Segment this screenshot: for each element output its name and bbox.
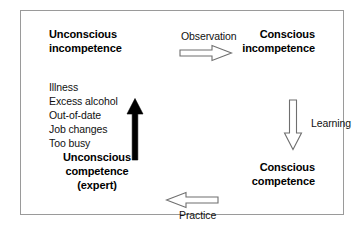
quadrant-label-conscious-incompetence: Conscious incompetence (242, 27, 315, 55)
list-item: Job changes (49, 122, 118, 136)
quadrant-label-line: Conscious (252, 160, 315, 174)
arrow-down-icon (283, 99, 303, 151)
quadrant-label-line: (expert) (49, 178, 145, 192)
quadrant-label-line: Unconscious (49, 27, 122, 41)
transition-label-observation: Observation (181, 30, 237, 42)
quadrant-label-line: incompetence (49, 41, 122, 55)
list-item: Illness (49, 80, 118, 94)
quadrant-label-line: Conscious (242, 27, 315, 41)
quadrant-label-line: competence (252, 174, 315, 188)
regression-causes-list: Illness Excess alcohol Out-of-date Job c… (49, 80, 118, 150)
diagram-frame: Unconscious incompetence Conscious incom… (20, 10, 344, 215)
quadrant-label-conscious-competence: Conscious competence (252, 160, 315, 188)
arrow-up-solid-icon (125, 97, 145, 161)
transition-label-learning: Learning (311, 117, 351, 129)
quadrant-label-unconscious-incompetence: Unconscious incompetence (49, 27, 122, 55)
transition-label-practice: Practice (179, 209, 216, 221)
list-item: Excess alcohol (49, 94, 118, 108)
arrow-left-icon (165, 191, 219, 209)
quadrant-label-line: competence (49, 164, 145, 178)
list-item: Out-of-date (49, 108, 118, 122)
arrow-right-icon (179, 44, 233, 62)
list-item: Too busy (49, 136, 118, 150)
quadrant-label-line: incompetence (242, 41, 315, 55)
